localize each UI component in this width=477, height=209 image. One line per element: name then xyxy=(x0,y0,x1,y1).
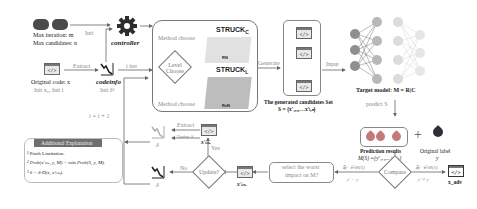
best-candidate-code-icon-top: </> xyxy=(201,124,217,136)
explanation-item-1: ¹ Patch Limitation. xyxy=(27,150,64,157)
increment-label: i = i + 1 xyxy=(89,113,109,120)
cond-right-bottom: y' ≠ y xyxy=(418,176,429,183)
target-model-label: Target model: M = R|C xyxy=(356,87,416,94)
best-candidate-code-icon-bottom: </> xyxy=(237,166,253,178)
delta-chart-icon-bottom xyxy=(151,165,165,179)
no-label: No xyxy=(180,165,187,172)
select-worst-line2: impact on M? xyxy=(285,172,318,179)
cond-left-top: ∃y' ∈ M(S) xyxy=(342,164,365,171)
prediction-tag-icons xyxy=(364,130,404,144)
plus-sign: + xyxy=(414,128,422,142)
delta-top-label: δ xyxy=(156,142,159,149)
predict-arrow-label: predict S xyxy=(366,101,388,108)
update-delta-label: Update δ xyxy=(177,133,193,140)
original-label-var: y xyxy=(436,155,438,162)
yes-label: Yes xyxy=(211,145,220,152)
compare-label: Compare xyxy=(378,169,412,175)
x-line-bottom-label: x'ₗᵢₙₑ xyxy=(237,181,247,188)
explanation-header-label: Additional Explanation xyxy=(41,140,92,147)
delta-bottom-label: δ xyxy=(156,182,159,189)
cond-left-bottom: y' = y xyxy=(347,176,358,183)
tag-icon xyxy=(390,130,403,143)
update-decision-label: Update? xyxy=(193,169,225,175)
extract-loop-label: Extract xyxy=(177,122,194,129)
explanation-item-2: ² Prob(x'ₗᵢₙₑ, y, M) = min Prob(S, y, M)… xyxy=(27,159,105,166)
x-line-top-label: x'ₗᵢₙₑ xyxy=(201,139,211,146)
prediction-results-title: Prediction results xyxy=(360,148,401,155)
original-label-title: Original label xyxy=(420,148,450,155)
tag-icon xyxy=(374,130,387,143)
delta-chart-icon-top xyxy=(151,125,165,139)
adversarial-code-icon: </> xyxy=(448,165,464,177)
explanation-item-3: ³ δ = δ-D(x, x'ₗᵢₙₑ). xyxy=(27,169,63,176)
select-worst-line1: select the worst xyxy=(282,164,319,171)
cond-right-top: ∃y' ∈ M(S) xyxy=(415,164,438,171)
x-adv-label: x_adv xyxy=(448,179,462,186)
